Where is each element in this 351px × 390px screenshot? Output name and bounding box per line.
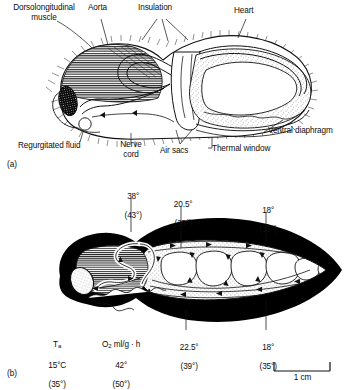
temp-label-thorax: 38° (43°) (111, 182, 151, 220)
temp-value-upper-abdomen: 18° (262, 206, 274, 215)
temp-label-petiole: 20.5° (35°) (159, 190, 203, 228)
temp-value-lower-abdomen: 22.5° (180, 343, 199, 352)
legend-ambient-alt: (35°) (49, 380, 66, 389)
figure-thermoregulation-diagram: Dorsolongitudinal muscle Aorta Insulatio… (0, 0, 351, 390)
legend-oxygen-value: 42° (115, 361, 127, 370)
scale-bar-label: 1 cm (274, 373, 331, 383)
legend-ambient-symbol: Ta (53, 340, 61, 349)
temp-value-petiole: 20.5° (174, 200, 193, 209)
temp-label-posterior-abdomen: 18° (35°) (246, 333, 286, 371)
temp-label-lower-abdomen: 22.5° (39°) (165, 333, 209, 371)
panel-b-mark: (b) (7, 369, 17, 378)
temp-alt-upper-abdomen: (35°) (260, 225, 277, 234)
legend-oxygen-symbol: O2 ml/g · h (102, 340, 140, 349)
legend-ambient-temperature: Ta 15°C (35°) (36, 330, 74, 390)
temp-alt-posterior-abdomen: (35°) (260, 362, 277, 371)
legend-oxygen-consumption: O2 ml/g · h 42° (50°) (83, 330, 155, 390)
temp-value-thorax: 38° (127, 192, 139, 201)
temp-alt-lower-abdomen: (39°) (181, 362, 198, 371)
temp-alt-petiole: (35°) (175, 219, 192, 228)
legend-oxygen-alt: (50°) (113, 380, 130, 389)
temp-label-upper-abdomen: 18° (35°) (246, 196, 286, 234)
temp-value-posterior-abdomen: 18° (262, 343, 274, 352)
temp-alt-thorax: (43°) (125, 211, 142, 220)
legend-ambient-value: 15°C (48, 361, 66, 370)
